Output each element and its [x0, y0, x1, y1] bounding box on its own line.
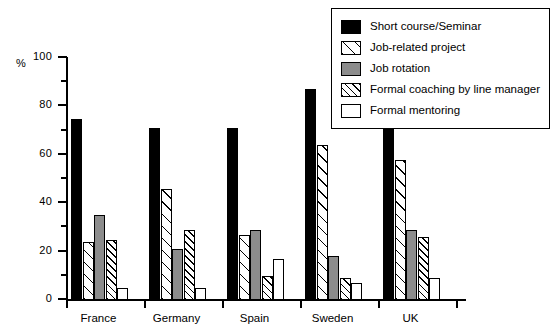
legend-swatch-icon [341, 104, 361, 118]
y-tick-label-wrap: 20 [22, 245, 52, 256]
x-tick [456, 300, 458, 308]
bar [351, 283, 362, 300]
legend-item: Formal coaching by line manager [341, 79, 541, 100]
bar [328, 256, 339, 300]
x-tick [378, 300, 380, 308]
bar [305, 89, 316, 300]
y-tick-label: 0 [26, 293, 52, 304]
y-tick-label: 60 [26, 148, 52, 159]
y-tick-minor [61, 129, 67, 131]
bar-group [149, 57, 207, 300]
bar [418, 237, 429, 300]
y-tick-label: 80 [26, 99, 52, 110]
bar [106, 240, 117, 301]
legend-swatch-icon [341, 41, 361, 55]
bar [149, 128, 160, 300]
x-axis-label-uk: UK [363, 312, 458, 325]
bar [262, 276, 273, 300]
bar [172, 249, 183, 300]
y-tick-minor [61, 177, 67, 179]
bar [273, 259, 284, 300]
x-tick [222, 300, 224, 308]
x-tick [144, 300, 146, 308]
bar-group [71, 57, 129, 300]
y-tick-minor [61, 225, 67, 227]
y-tick-major [58, 153, 67, 155]
legend: Short course/SeminarJob-related projectJ… [331, 8, 550, 129]
legend-label: Job rotation [370, 62, 430, 75]
y-tick-label-wrap: 60 [22, 148, 52, 159]
bar [71, 119, 82, 301]
bar [94, 215, 105, 300]
bar [239, 235, 250, 300]
y-tick-label: 100 [26, 51, 52, 62]
y-tick-label-wrap: 80 [22, 99, 52, 110]
legend-item: Formal mentoring [341, 100, 541, 121]
x-tick [66, 300, 68, 308]
bar-group [227, 57, 285, 300]
y-tick-label-wrap: 40 [22, 196, 52, 207]
legend-label: Formal coaching by line manager [370, 83, 540, 96]
y-tick-minor [61, 274, 67, 276]
y-tick-label: 40 [26, 196, 52, 207]
legend-label: Job-related project [370, 41, 465, 54]
y-tick-major [58, 250, 67, 252]
bar [395, 160, 406, 300]
y-tick-label: 20 [26, 245, 52, 256]
y-tick-label-wrap: 0 [22, 293, 52, 304]
bar [340, 278, 351, 300]
legend-item: Short course/Seminar [341, 16, 541, 37]
y-tick-major [58, 104, 67, 106]
legend-item: Job rotation [341, 58, 541, 79]
bar [184, 230, 195, 300]
bar [317, 145, 328, 300]
bar [83, 242, 94, 300]
legend-label: Formal mentoring [370, 104, 460, 117]
legend-label: Short course/Seminar [370, 20, 481, 33]
legend-swatch-icon [341, 83, 361, 97]
y-tick-major [58, 56, 67, 58]
legend-item: Job-related project [341, 37, 541, 58]
bar [406, 230, 417, 300]
y-tick-major [58, 201, 67, 203]
y-tick-label-wrap: 100 [22, 51, 52, 62]
bar [117, 288, 128, 300]
x-tick [300, 300, 302, 308]
legend-swatch-icon [341, 62, 361, 76]
y-tick-minor [61, 80, 67, 82]
bar [250, 230, 261, 300]
legend-swatch-icon [341, 20, 361, 34]
bar-chart: % 020406080100 FranceGermanySpainSwedenU… [0, 0, 557, 332]
bar [227, 128, 238, 300]
bar [429, 278, 440, 300]
bar [161, 189, 172, 300]
bar [195, 288, 206, 300]
